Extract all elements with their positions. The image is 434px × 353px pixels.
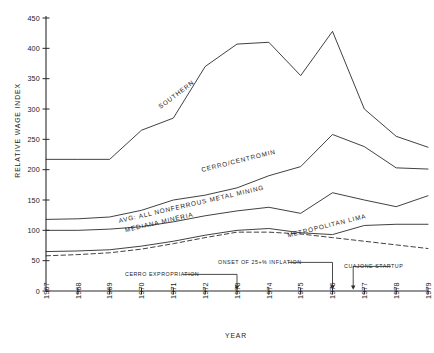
- x-tick-label: 1968: [74, 282, 83, 299]
- series-label-cerro-centromin: CERRO/CENTROMIN: [201, 148, 277, 173]
- y-tick-label: 350: [27, 74, 40, 83]
- x-tick-label: 1972: [201, 282, 210, 299]
- x-tick-label: 1971: [169, 282, 178, 299]
- x-tick-label: 1979: [424, 282, 433, 299]
- y-tick-label: 200: [27, 165, 40, 174]
- x-tick-label: 1975: [296, 282, 305, 299]
- annotation-leader: [288, 262, 332, 287]
- y-tick-label: 450: [27, 14, 40, 23]
- x-axis-title: YEAR: [225, 332, 247, 339]
- series-line-avg-all-nonferrous-metal-mining: [46, 193, 428, 231]
- y-tick-label: 100: [27, 226, 40, 235]
- x-tick-label: 1974: [265, 282, 274, 299]
- series-line-metropolitan-lima: [46, 232, 428, 256]
- series-line-cerro-centromin: [46, 134, 428, 219]
- x-tick-label: 1977: [360, 282, 369, 299]
- y-tick-label: 150: [27, 196, 40, 205]
- x-tick-label: 1970: [137, 282, 146, 299]
- y-tick-label: 250: [27, 135, 40, 144]
- y-axis-title: RELATIVE WAGE INDEX: [14, 83, 21, 178]
- series-label-southern: SOUTHERN: [157, 79, 195, 110]
- annotation-leader: [353, 266, 391, 287]
- annotation-arrowhead-icon: [351, 286, 355, 290]
- y-tick-label: 0: [36, 287, 40, 296]
- x-tick-label: 1969: [105, 282, 114, 299]
- y-tick-label: 400: [27, 44, 40, 53]
- series-line-southern: [46, 31, 428, 159]
- y-tick-label: 300: [27, 105, 40, 114]
- x-tick-label: 1978: [392, 282, 401, 299]
- wage-index-chart: 0501001502002503003504004501967196819691…: [0, 0, 434, 353]
- chart-canvas: 0501001502002503003504004501967196819691…: [0, 0, 434, 353]
- series-line-mediana-mineria: [46, 224, 428, 251]
- x-tick-label: 1967: [42, 282, 51, 299]
- y-tick-label: 50: [32, 256, 40, 265]
